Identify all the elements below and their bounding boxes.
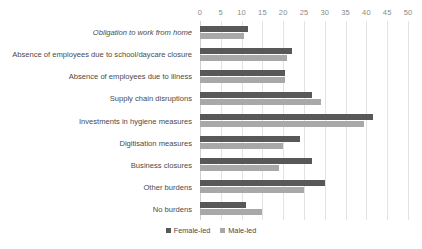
plot-area [200, 21, 408, 220]
x-tick-label-7: 35 [341, 8, 350, 17]
category-label-2: Absence of employees due to illness [0, 72, 192, 81]
legend-item-male-led[interactable]: Male-led [220, 226, 256, 235]
bar-female-led-4 [200, 114, 373, 120]
category-label-3: Supply chain disruptions [0, 94, 192, 103]
bar-group [200, 198, 408, 220]
category-label-7: Other burdens [0, 182, 192, 191]
category-label-0: Obligation to work from home [0, 28, 192, 37]
chart-legend: Female-ledMale-led [0, 226, 422, 235]
x-tick-label-6: 30 [320, 8, 329, 17]
bar-male-led-8 [200, 209, 262, 215]
x-tick-label-4: 20 [279, 8, 288, 17]
bar-female-led-5 [200, 136, 300, 142]
bar-male-led-0 [200, 33, 244, 39]
bar-group [200, 132, 408, 154]
bar-female-led-7 [200, 180, 325, 186]
bar-group [200, 65, 408, 87]
bar-female-led-1 [200, 48, 292, 54]
category-label-6: Business closures [0, 160, 192, 169]
legend-label: Male-led [228, 226, 256, 235]
x-tick-label-0: 0 [198, 8, 202, 17]
bar-female-led-6 [200, 158, 312, 164]
category-label-4: Investments in hygiene measures [0, 116, 192, 125]
bar-male-led-1 [200, 55, 287, 61]
legend-item-female-led[interactable]: Female-led [166, 226, 211, 235]
legend-swatch-icon [220, 228, 225, 233]
bar-male-led-6 [200, 165, 279, 171]
bar-male-led-7 [200, 187, 304, 193]
category-axis-labels: Obligation to work from homeAbsence of e… [0, 21, 196, 220]
bar-male-led-3 [200, 99, 321, 105]
x-tick-label-8: 40 [362, 8, 371, 17]
bar-male-led-4 [200, 121, 364, 127]
x-tick-label-5: 25 [300, 8, 309, 17]
x-tick-label-10: 50 [404, 8, 413, 17]
bar-chart: 05101520253035404550 Obligation to work … [0, 0, 422, 249]
bar-female-led-0 [200, 26, 248, 32]
category-label-8: No burdens [0, 204, 192, 213]
bar-group [200, 176, 408, 198]
bar-group [200, 87, 408, 109]
x-tick-label-9: 45 [383, 8, 392, 17]
bar-male-led-2 [200, 77, 285, 83]
category-label-5: Digitisation measures [0, 138, 192, 147]
gridline-10 [408, 21, 409, 220]
x-tick-label-1: 5 [219, 8, 223, 17]
bar-group [200, 21, 408, 43]
category-label-1: Absence of employees due to school/dayca… [0, 50, 192, 59]
legend-label: Female-led [174, 226, 211, 235]
bar-female-led-8 [200, 202, 246, 208]
legend-swatch-icon [166, 228, 171, 233]
bar-group [200, 154, 408, 176]
x-axis-tick-labels: 05101520253035404550 [200, 8, 408, 20]
bar-female-led-2 [200, 70, 285, 76]
bar-female-led-3 [200, 92, 312, 98]
bar-group [200, 109, 408, 131]
bar-group [200, 43, 408, 65]
bar-male-led-5 [200, 143, 283, 149]
x-tick-label-2: 10 [237, 8, 246, 17]
x-tick-label-3: 15 [258, 8, 267, 17]
